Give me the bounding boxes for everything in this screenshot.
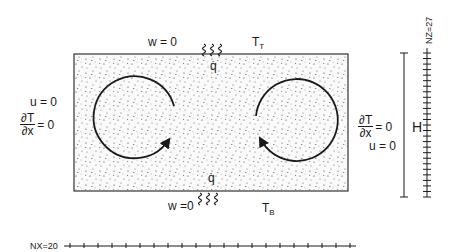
right-temperature-gradient-bc: ∂T∂x = 0: [358, 114, 392, 139]
nz-label: NZ=27: [424, 17, 434, 44]
height-dimension-line: [400, 53, 408, 197]
bottom-velocity-bc: w =0: [168, 200, 194, 212]
nx-label: NX=20: [30, 240, 58, 252]
left-temperature-gradient-bc: ∂T∂x = 0: [20, 112, 54, 137]
bottom-temperature-subscript: B: [269, 208, 274, 217]
left-gradient-equals: = 0: [37, 118, 54, 132]
top-velocity-bc: w = 0: [148, 36, 177, 48]
left-gradient-denominator: ∂x: [22, 125, 34, 137]
top-temperature-subscript: T: [259, 42, 264, 51]
bottom-temperature-label: TB: [262, 202, 275, 219]
nx-grid-ruler: [64, 243, 356, 248]
left-velocity-bc: u = 0: [30, 96, 57, 108]
top-temperature-label: TT: [252, 36, 264, 53]
bottom-heat-flux-label: q̇: [208, 172, 215, 184]
right-gradient-equals: = 0: [375, 120, 392, 134]
bottom-heat-flux-icon: [199, 193, 218, 205]
top-heat-flux-label: q̇: [210, 60, 217, 72]
right-gradient-denominator: ∂x: [360, 127, 372, 139]
nz-grid-ruler: [423, 48, 431, 197]
height-label: H: [412, 121, 422, 133]
right-velocity-bc: u = 0: [369, 140, 396, 152]
